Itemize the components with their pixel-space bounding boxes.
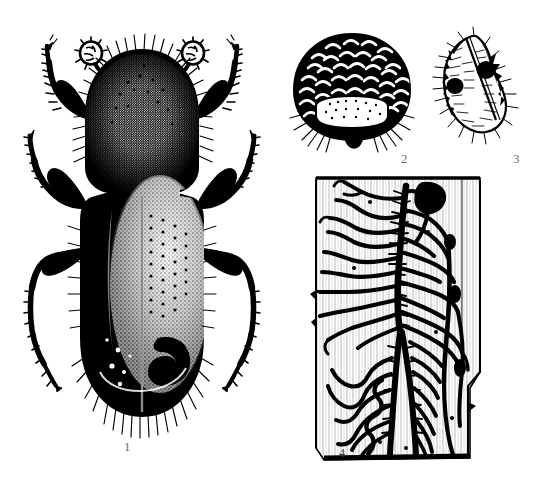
hindleg-right bbox=[197, 248, 260, 392]
pronotum bbox=[78, 46, 208, 196]
midleg-left bbox=[24, 130, 86, 206]
hindleg-left bbox=[24, 248, 87, 392]
nuptial-chamber bbox=[416, 183, 444, 212]
figure-2-label: 2 bbox=[401, 152, 408, 165]
beetle-body bbox=[68, 46, 216, 438]
pupal-chamber-a bbox=[445, 235, 455, 249]
gallery-svg bbox=[310, 172, 490, 468]
tubercle-upper bbox=[477, 61, 496, 79]
beetle-dorsal-svg bbox=[8, 20, 276, 440]
figure-3-declivity bbox=[428, 30, 528, 152]
figure-1-dorsal-habitus bbox=[8, 20, 276, 440]
figure-2-pronotum bbox=[282, 28, 422, 153]
figure-3-label: 3 bbox=[513, 152, 520, 165]
tubercle-lower bbox=[447, 78, 464, 94]
figure-1-label: 1 bbox=[124, 440, 131, 453]
declivity-svg bbox=[428, 30, 528, 152]
mouthparts bbox=[344, 132, 363, 148]
illustration-plate: 1 bbox=[0, 0, 545, 489]
pupal-chamber-b bbox=[450, 286, 460, 302]
figure-4-label: 4 bbox=[339, 447, 345, 459]
pronotum-svg bbox=[282, 28, 422, 153]
panel-bottom-edge bbox=[324, 456, 470, 458]
figure-4-gallery-system bbox=[310, 172, 490, 468]
elytra bbox=[81, 175, 212, 416]
